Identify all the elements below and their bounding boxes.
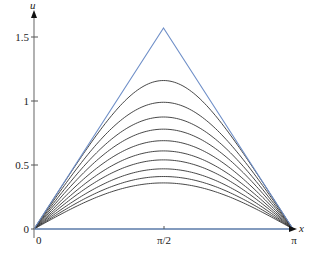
heat-equation-chart: u 1.5 1 0.5 0 0 π/2 π x	[0, 0, 318, 257]
x-tick-label-0: 0	[36, 234, 42, 246]
x-axis-label: x	[298, 222, 304, 234]
solution-curve	[34, 117, 293, 229]
initial-condition-triangle	[34, 28, 293, 229]
solution-curves	[34, 81, 293, 229]
solution-curve	[34, 102, 293, 229]
y-axis-arrow-icon	[31, 10, 37, 18]
x-axis-arrow-icon	[289, 226, 297, 232]
y-tick-label-0: 0	[24, 223, 30, 235]
x-tick-label-pi: π	[291, 234, 297, 246]
x-tick-label-pi-half: π/2	[157, 234, 171, 246]
solution-curve	[34, 141, 293, 229]
plot-area: u 1.5 1 0.5 0 0 π/2 π x	[0, 0, 318, 257]
y-ticks	[31, 37, 164, 229]
y-tick-label-1.5: 1.5	[15, 31, 29, 43]
y-tick-label-1: 1	[24, 95, 30, 107]
y-tick-label-0.5: 0.5	[15, 159, 29, 171]
solution-curve	[34, 183, 293, 229]
solution-curve	[34, 169, 293, 229]
solution-curve	[34, 151, 293, 229]
solution-curve	[34, 81, 293, 229]
y-axis-label: u	[30, 0, 36, 11]
